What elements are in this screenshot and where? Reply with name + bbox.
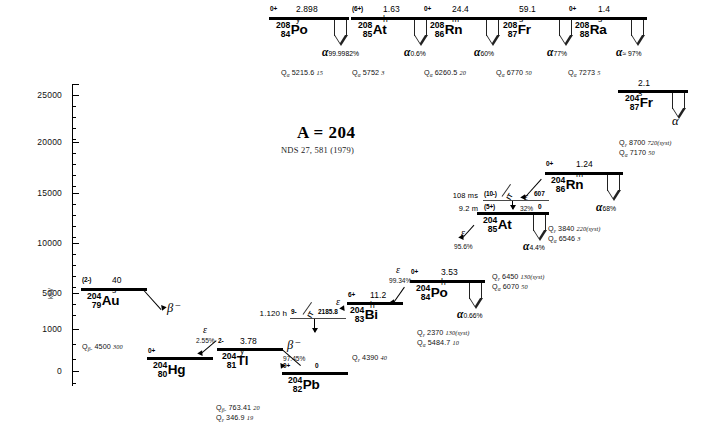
- level-energy: 0: [315, 362, 319, 369]
- beta-symbol: β⁻: [287, 337, 300, 353]
- spin-parity: (5+): [484, 203, 495, 210]
- decay-mode: α≈ 97%: [616, 46, 642, 58]
- q-number: 4390: [362, 353, 378, 362]
- epsilon-branch: 32%: [520, 205, 533, 212]
- q-number: 6770: [507, 68, 523, 77]
- q-value-beta: Qβ- 763.41 20: [216, 403, 260, 413]
- atomic-number: 79: [87, 301, 101, 310]
- q-number: 6260.5: [435, 68, 458, 77]
- axis-tick: [72, 383, 76, 384]
- axis-tick: [72, 237, 76, 238]
- alpha-decay-arrow: [559, 20, 572, 45]
- q-uncertainty: 15: [316, 69, 323, 76]
- epsilon-symbol: ε: [396, 264, 400, 275]
- q-value-epsilon: Qε 4390 40: [352, 353, 387, 363]
- element-symbol: Au: [102, 294, 119, 308]
- axis-label-5000: 5000: [18, 288, 62, 298]
- decay-mode: α0.6%: [404, 46, 426, 58]
- branch-ratio: 0.66%: [463, 312, 482, 319]
- element-symbol: Bi: [365, 308, 378, 322]
- q-uncertainty: 130(syst): [446, 329, 470, 336]
- element-symbol: Hg: [168, 363, 185, 377]
- epsilon-branch: 99.34%: [389, 277, 411, 284]
- alpha-decay-arrow: [414, 20, 427, 45]
- atomic-number: 85: [358, 30, 372, 39]
- nuclide-label: 20887Fr: [503, 20, 531, 38]
- axis-tick-15000: [72, 193, 79, 194]
- atomic-number: 86: [551, 185, 565, 194]
- axis-tick: [72, 153, 76, 154]
- spin-parity: (6+): [352, 5, 363, 12]
- axis-unit-label: keV: [47, 288, 54, 299]
- q-uncertainty: 10: [452, 339, 459, 346]
- q-subscript: α: [574, 72, 577, 78]
- q-value-epsilon: Qε 6450 130(syst): [492, 272, 545, 282]
- element-symbol: Pb: [303, 378, 320, 392]
- page-title: A = 204: [297, 123, 356, 143]
- q-subscript: α: [498, 286, 501, 292]
- decay-mode: α77%: [547, 46, 567, 58]
- q-value-epsilon: Qε 346.9 19: [216, 413, 253, 423]
- level-energy-isomer: 2185.8: [318, 308, 338, 315]
- q-value-epsilon: Qε 8700 720(syst): [619, 138, 672, 148]
- alpha-decay-arrow: [469, 283, 482, 308]
- axis-tick: [72, 128, 76, 129]
- q-uncertainty: 5: [597, 69, 600, 76]
- axis-tick: [72, 344, 76, 345]
- beta-branch: 97.45%: [283, 355, 305, 362]
- q-number: 6450: [502, 272, 518, 281]
- decay-mode: α60%: [474, 46, 494, 58]
- atomic-number: 87: [503, 30, 517, 39]
- level-energy-isomer: 607: [534, 190, 545, 197]
- axis-tick: [72, 287, 76, 288]
- branch-ratio: 77%: [553, 50, 567, 57]
- nuclide-label: 20480Hg: [153, 360, 185, 378]
- nuclide-label: 20482Pb: [288, 375, 320, 393]
- axis-tick: [72, 164, 76, 165]
- nuclide-label: 20888Ra: [575, 20, 607, 38]
- branch-ratio: 60%: [480, 50, 494, 57]
- q-subscript: ε: [222, 417, 224, 423]
- q-subscript: α: [358, 72, 361, 78]
- q-value-alpha: Qα 7170 50: [619, 148, 655, 158]
- nuclide-label: 20484Po: [416, 283, 448, 301]
- alpha-decay-arrow: [334, 20, 347, 45]
- axis-tick: [72, 254, 76, 255]
- branch-ratio: 99.9982%: [328, 50, 359, 57]
- decay-mode: α68%: [596, 201, 616, 213]
- axis-tick-20000: [72, 142, 79, 143]
- element-symbol: Ra: [590, 23, 607, 37]
- q-value: Qα 6260.5 20: [424, 68, 466, 78]
- element-symbol: Po: [431, 286, 448, 300]
- nuclide-label: 20485At: [483, 215, 512, 233]
- q-value: Qα 5752 3: [352, 68, 385, 78]
- spin-parity: (2-): [82, 276, 91, 283]
- q-uncertainty: 3: [381, 69, 384, 76]
- atomic-number: 81: [222, 361, 236, 370]
- element-symbol: Rn: [445, 23, 462, 37]
- element-symbol: Rn: [566, 178, 583, 192]
- epsilon-arrowhead: [197, 349, 205, 356]
- q-number: 8700: [629, 138, 645, 147]
- axis-tick: [72, 117, 76, 118]
- q-number: 6070: [503, 282, 519, 291]
- q-number: 763.41: [229, 403, 252, 412]
- epsilon-branch: 2.55%: [196, 337, 215, 344]
- level-bar-isomer: [290, 318, 346, 319]
- y-axis-line: [72, 84, 73, 386]
- axis-tick-5000: [72, 293, 79, 294]
- axis-tick: [72, 204, 76, 205]
- q-value-epsilon: Qε 3840 220(syst): [548, 224, 601, 234]
- beta-transition-line: [143, 289, 162, 310]
- q-uncertainty: 130(syst): [521, 273, 545, 280]
- q-subscript: α: [502, 72, 505, 78]
- q-uncertainty: 300: [113, 343, 123, 350]
- spin-parity: 0+: [546, 160, 553, 167]
- spin-parity: 0+: [270, 5, 277, 12]
- q-uncertainty: 50: [648, 149, 655, 156]
- nuclide-label: 20486Rn: [551, 175, 583, 193]
- q-value: Qα 6770 50: [496, 68, 532, 78]
- epsilon-symbol: ε: [203, 324, 207, 335]
- q-uncertainty: 50: [521, 283, 528, 290]
- spin-parity: 0+: [411, 268, 418, 275]
